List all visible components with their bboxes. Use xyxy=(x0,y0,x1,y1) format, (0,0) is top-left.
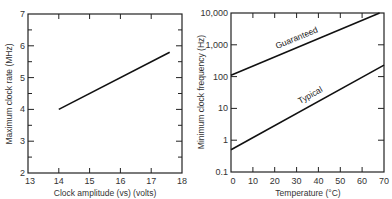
left-y-label-7: 7 xyxy=(20,9,25,19)
right-y-label-10000: 10,000 xyxy=(200,8,228,18)
left-y-label-3: 3 xyxy=(20,136,25,146)
left-series-line xyxy=(59,52,170,109)
left-y-ticks xyxy=(28,30,182,157)
left-x-label-17: 17 xyxy=(146,176,156,186)
right-chart: 0.1 1 10 100 1,000 10,000 0 10 20 30 40 … xyxy=(196,8,389,198)
left-x-tick-labels: 13 14 15 16 17 18 xyxy=(25,176,187,186)
typical-series-line xyxy=(231,65,384,150)
typical-label: Typical xyxy=(296,84,324,106)
left-x-label-14: 14 xyxy=(54,176,64,186)
right-x-axis-title: Temperature (°C) xyxy=(275,188,340,198)
left-y-label-4: 4 xyxy=(20,104,25,114)
left-plot-frame xyxy=(28,14,182,173)
left-y-label-5: 5 xyxy=(20,73,25,83)
left-x-label-15: 15 xyxy=(85,176,95,186)
left-chart: 2 3 4 5 6 7 13 14 15 16 17 18 Clock ampl… xyxy=(4,9,187,198)
right-x-label-0: 0 xyxy=(230,176,235,186)
right-y-label-1000: 1,000 xyxy=(205,40,228,50)
right-x-label-70: 70 xyxy=(379,176,389,186)
left-x-label-18: 18 xyxy=(177,176,187,186)
right-x-label-30: 30 xyxy=(292,176,302,186)
right-x-label-40: 40 xyxy=(313,176,323,186)
left-y-axis-title: Maximum clock rate (MHz) xyxy=(4,43,14,144)
figure: 2 3 4 5 6 7 13 14 15 16 17 18 Clock ampl… xyxy=(0,0,392,199)
left-x-label-16: 16 xyxy=(115,176,125,186)
right-x-tick-labels: 0 10 20 30 40 50 60 70 xyxy=(230,176,389,186)
right-y-axis-title: Minimum clock frequency (Hz) xyxy=(196,35,206,149)
right-y-label-100: 100 xyxy=(213,72,228,82)
right-y-label-10: 10 xyxy=(218,103,228,113)
left-y-label-6: 6 xyxy=(20,41,25,51)
left-y-tick-labels: 2 3 4 5 6 7 xyxy=(20,9,25,178)
guaranteed-label: Guaranteed xyxy=(274,24,320,51)
right-x-label-60: 60 xyxy=(357,176,367,186)
guaranteed-series-line xyxy=(231,13,380,75)
left-x-ticks xyxy=(59,14,151,173)
right-y-label-1: 1 xyxy=(223,135,228,145)
left-x-axis-title: Clock amplitude (vs) (volts) xyxy=(54,188,157,198)
right-x-label-20: 20 xyxy=(270,176,280,186)
right-x-label-50: 50 xyxy=(335,176,345,186)
right-y-label-0.1: 0.1 xyxy=(215,167,228,177)
right-x-label-10: 10 xyxy=(248,176,258,186)
left-x-label-13: 13 xyxy=(25,176,35,186)
